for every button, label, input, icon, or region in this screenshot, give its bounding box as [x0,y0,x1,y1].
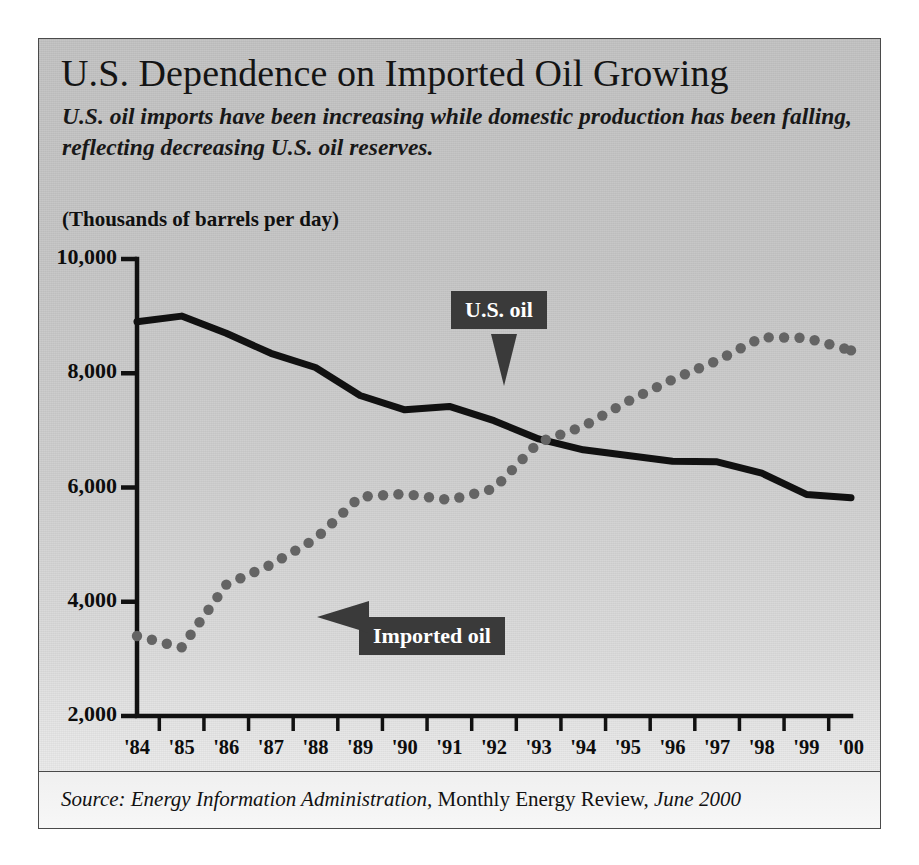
source-citation: Source: Energy Information Administratio… [61,787,741,812]
y-axis-tick-label: 6,000 [38,473,117,499]
x-axis-tick-label: '87 [249,736,293,759]
x-axis-tick-label: '93 [517,736,561,759]
y-axis-tick-label: 2,000 [38,701,117,727]
callout-us-oil: U.S. oil [451,291,547,329]
x-axis-tick-label: '89 [338,736,382,759]
x-axis-tick-label: '00 [829,736,873,759]
x-axis-tick-label: '91 [427,736,471,759]
chart-canvas [39,39,881,829]
source-date: June 2000 [649,787,741,811]
x-axis-tick-label: '85 [160,736,204,759]
x-axis-tick-label: '92 [472,736,516,759]
source-agency: Source: Energy Information Administratio… [61,787,432,811]
x-axis-tick-label: '99 [784,736,828,759]
x-axis-tick-label: '84 [115,736,159,759]
callout-imported-oil: Imported oil [359,617,505,655]
x-axis-tick-label: '96 [651,736,695,759]
source-publication: Monthly Energy Review, [432,787,648,811]
callout-imported-oil-tail [317,601,369,633]
chart-axes [121,259,851,731]
y-axis-tick-label: 10,000 [38,244,117,270]
y-axis-tick-label: 4,000 [38,587,117,613]
x-axis-tick-label: '98 [740,736,784,759]
plot-area: 10,0008,0006,0004,0002,000'84'85'86'87'8… [39,39,881,829]
source-bar: Source: Energy Information Administratio… [39,771,880,828]
y-axis-tick-label: 8,000 [38,358,117,384]
x-axis-tick-label: '95 [606,736,650,759]
x-axis-tick-label: '88 [294,736,338,759]
x-axis-tick-label: '86 [204,736,248,759]
x-axis-tick-label: '97 [695,736,739,759]
x-axis-tick-label: '90 [383,736,427,759]
x-axis-tick-label: '94 [561,736,605,759]
callout-us-oil-tail [491,334,517,386]
chart-figure: U.S. Dependence on Imported Oil Growing … [38,38,881,829]
